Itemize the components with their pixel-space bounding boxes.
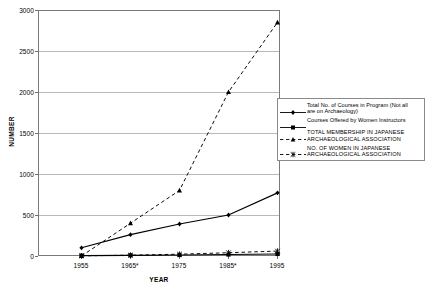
legend-label-women-members: NO. OF WOMEN IN JAPANESE ARCHAEOLOGICAL … xyxy=(306,145,401,158)
legend-label-women-instructors: Courses Offered by Women Instructors xyxy=(306,117,406,123)
legend-item-women-members: NO. OF WOMEN IN JAPANESE ARCHAEOLOGICAL … xyxy=(280,145,422,158)
legend-label-total-membership-line1: TOTAL MEMBERSHIP IN JAPANESE xyxy=(307,129,404,135)
legend-key-asterisk-dashed xyxy=(280,145,306,154)
gridline-2000 xyxy=(39,92,279,93)
y-tick-0: 0 xyxy=(30,253,34,260)
chart-legend: Total No. of Courses in Program (Not all… xyxy=(277,98,425,161)
x-tick-1975: 1975 xyxy=(159,262,199,269)
legend-label-women-instructors-line1: Courses Offered by Women Instructors xyxy=(307,117,406,123)
x-tickmark-1955 xyxy=(81,256,82,259)
x-tick-1985: 1985* xyxy=(208,262,248,269)
x-tick-1965: 1965* xyxy=(110,262,150,269)
y-axis-tick-labels: 3000 2500 2000 1500 1000 500 0 xyxy=(0,0,38,266)
gridline-1500 xyxy=(39,133,279,134)
x-tickmark-1995 xyxy=(277,256,278,259)
gridline-1000 xyxy=(39,174,279,175)
y-tick-1500: 1500 xyxy=(19,130,34,137)
legend-item-women-instructors: Courses Offered by Women Instructors xyxy=(280,117,422,127)
legend-label-total-courses-line2: are on Archaeology) xyxy=(307,108,408,114)
legend-item-total-courses: Total No. of Courses in Program (Not all… xyxy=(280,102,422,115)
x-tickmark-1975 xyxy=(179,256,180,259)
gridline-2500 xyxy=(39,51,279,52)
x-tickmark-1965 xyxy=(130,256,131,259)
legend-item-total-membership: TOTAL MEMBERSHIP IN JAPANESE ARCHAEOLOGI… xyxy=(280,129,422,142)
y-tick-2000: 2000 xyxy=(19,89,34,96)
legend-key-diamond-solid xyxy=(280,103,306,112)
legend-label-total-membership-line2: ARCHAEOLOGICAL ASSOCIATION xyxy=(307,136,404,142)
legend-label-total-courses: Total No. of Courses in Program (Not all… xyxy=(306,102,408,115)
y-tick-500: 500 xyxy=(23,212,34,219)
legend-key-square-solid xyxy=(280,118,306,127)
legend-key-triangle-dashed xyxy=(280,130,306,139)
x-tick-1955: 1955 xyxy=(61,262,101,269)
x-axis-label: YEAR xyxy=(38,276,280,283)
chart-figure: NUMBER 3000 2500 2000 1500 1000 500 0 19… xyxy=(0,0,427,290)
y-tick-3000: 3000 xyxy=(19,7,34,14)
y-tick-2500: 2500 xyxy=(19,48,34,55)
plot-area xyxy=(38,10,280,256)
legend-label-total-membership: TOTAL MEMBERSHIP IN JAPANESE ARCHAEOLOGI… xyxy=(306,129,404,142)
legend-label-women-members-line2: ARCHAEOLOGICAL ASSOCIATION xyxy=(307,151,401,157)
y-tickmark-0 xyxy=(35,256,38,257)
x-tickmark-1985 xyxy=(228,256,229,259)
x-tick-1995: 1995 xyxy=(257,262,297,269)
gridline-500 xyxy=(39,215,279,216)
y-tick-1000: 1000 xyxy=(19,171,34,178)
